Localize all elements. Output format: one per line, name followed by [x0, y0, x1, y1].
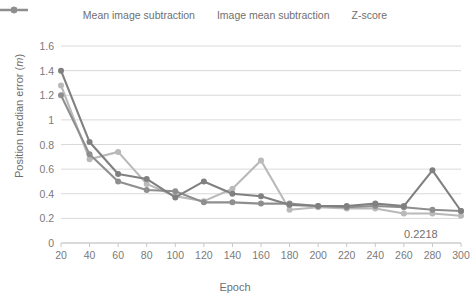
data-point: [58, 82, 64, 88]
data-point: [115, 178, 121, 184]
data-point: [401, 203, 407, 209]
data-point: [115, 149, 121, 155]
data-point: [201, 199, 207, 205]
data-point: [287, 202, 293, 208]
data-point: [258, 158, 264, 164]
data-point: [401, 210, 407, 216]
data-point: [429, 207, 435, 213]
data-point: [87, 151, 93, 157]
data-point-annotation: 0.2218: [404, 228, 438, 240]
data-point: [344, 203, 350, 209]
data-point: [58, 92, 64, 98]
data-point: [258, 193, 264, 199]
data-point: [201, 178, 207, 184]
series-line-0: [61, 71, 461, 211]
data-point: [58, 68, 64, 74]
data-point: [458, 208, 464, 214]
data-point: [372, 201, 378, 207]
data-point: [172, 194, 178, 200]
data-point: [315, 203, 321, 209]
data-point: [115, 171, 121, 177]
data-point: [144, 187, 150, 193]
data-point: [258, 201, 264, 207]
data-point: [87, 139, 93, 145]
data-point: [429, 167, 435, 173]
data-point: [144, 176, 150, 182]
data-point: [229, 191, 235, 197]
data-point: [229, 199, 235, 205]
data-point: [172, 188, 178, 194]
